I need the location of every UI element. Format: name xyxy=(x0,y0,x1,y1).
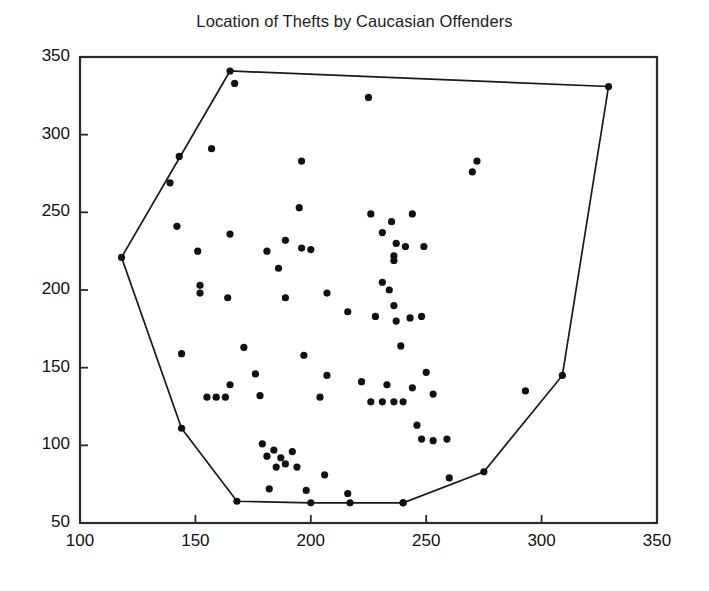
x-tick-label-250: 250 xyxy=(396,531,456,551)
y-tick-label-100: 100 xyxy=(42,434,70,454)
y-tick-label-300: 300 xyxy=(42,124,70,144)
x-tick-label-150: 150 xyxy=(165,531,225,551)
x-tick-label-350: 350 xyxy=(627,531,687,551)
x-tick-label-200: 200 xyxy=(281,531,341,551)
chart-figure: Location of Thefts by Caucasian Offender… xyxy=(0,0,709,591)
x-tick-label-100: 100 xyxy=(50,531,110,551)
axis-frame xyxy=(80,57,657,523)
convex-hull-polygon xyxy=(122,71,609,503)
scatter-plot-canvas xyxy=(0,0,709,591)
y-tick-label-250: 250 xyxy=(42,201,70,221)
y-tick-label-150: 150 xyxy=(42,357,70,377)
y-tick-label-350: 350 xyxy=(42,46,70,66)
y-tick-label-200: 200 xyxy=(42,279,70,299)
data-point-group xyxy=(118,67,612,506)
tick-marks xyxy=(80,135,542,523)
x-tick-label-300: 300 xyxy=(512,531,572,551)
y-tick-label-50: 50 xyxy=(51,512,70,532)
